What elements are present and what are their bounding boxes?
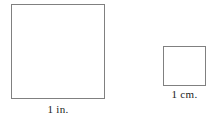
square-inch [11,4,105,99]
square-centimeter [163,46,206,86]
square-centimeter-label: 1 cm. [159,88,210,100]
square-inch-label: 1 in. [11,103,105,115]
figure-canvas: 1 in. 1 cm. [0,0,213,121]
